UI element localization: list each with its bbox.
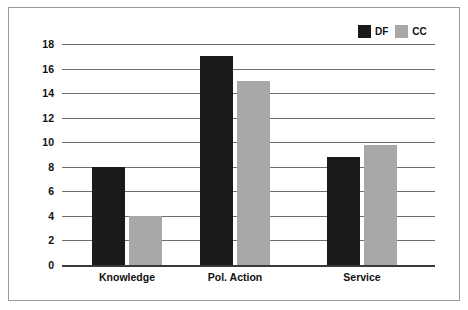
y-axis-tick-label: 4 — [28, 211, 54, 222]
chart-figure: 181614121086420 KnowledgePol. ActionServ… — [0, 0, 468, 310]
legend-swatch-icon — [358, 25, 371, 38]
x-axis-category-label: Service — [297, 272, 427, 283]
x-axis-category-label: Pol. Action — [170, 272, 300, 283]
bar-df-2 — [327, 157, 360, 265]
legend-label: DF — [375, 27, 388, 37]
chart-legend: DFCC — [358, 25, 427, 38]
y-axis-tick-label: 14 — [28, 88, 54, 99]
y-axis-tick-label: 16 — [28, 64, 54, 75]
bar-cc-0 — [129, 216, 162, 265]
y-axis-tick-label: 10 — [28, 137, 54, 148]
bar-df-0 — [92, 167, 125, 265]
gridline — [62, 69, 435, 70]
y-axis-tick-label: 2 — [28, 235, 54, 246]
legend-label: CC — [412, 27, 426, 37]
axis-baseline — [62, 265, 435, 267]
y-axis-tick-label: 12 — [28, 113, 54, 124]
legend-swatch-icon — [395, 25, 408, 38]
legend-item-cc: CC — [395, 25, 426, 38]
bar-cc-1 — [237, 81, 270, 265]
bar-cc-2 — [364, 145, 397, 265]
gridline — [62, 44, 435, 45]
plot-area — [62, 44, 435, 265]
y-axis-tick-label: 0 — [28, 260, 54, 271]
y-axis-tick-label: 6 — [28, 186, 54, 197]
y-axis-tick-labels: 181614121086420 — [26, 44, 54, 265]
legend-item-df: DF — [358, 25, 388, 38]
y-axis-tick-label: 8 — [28, 162, 54, 173]
y-axis-tick-label: 18 — [28, 39, 54, 50]
bar-df-1 — [200, 56, 233, 265]
